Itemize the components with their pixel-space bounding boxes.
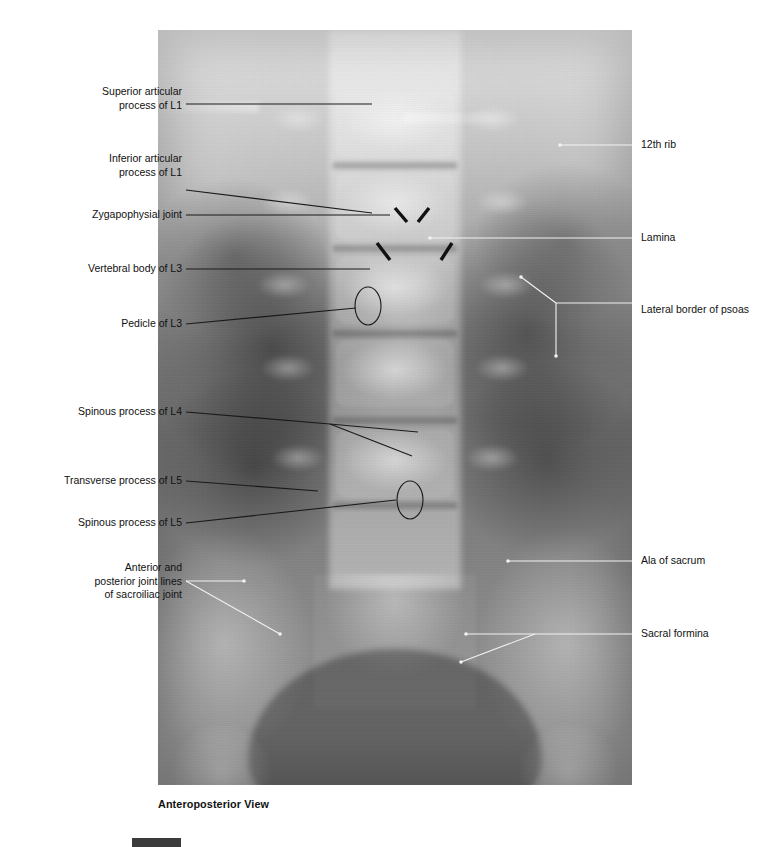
label-transverse-process-l5: Transverse process of L5 (12, 474, 182, 488)
label-zygapophysial-joint: Zygapophysial joint (32, 208, 182, 222)
leader-dot-psoas-lower (554, 354, 558, 358)
leader-dot-sacral-foramina-upper (464, 632, 468, 636)
leader-dot-sacroiliac-upper (242, 579, 246, 583)
label-inferior-articular-process-l1: Inferior articular process of L1 (42, 152, 182, 179)
label-lateral-border-of-psoas: Lateral border of psoas (641, 303, 773, 317)
leader-spinous-process-l5 (186, 500, 396, 523)
leader-dot-ala-of-sacrum (506, 559, 510, 563)
marker-oval-spinous-process-l5 (397, 481, 423, 519)
label-sacral-foramina: Sacral formina (641, 627, 771, 641)
leader-pedicle-l3 (186, 308, 356, 324)
label-pedicle-l3: Pedicle of L3 (32, 317, 182, 331)
leader-psoas-upper (521, 277, 556, 303)
marker-dash-right (441, 243, 452, 260)
leader-inferior-articular-process-l1 (186, 190, 372, 213)
leader-sacral-foramina-lower (461, 634, 535, 662)
label-vertebral-body-l3: Vertebral body of L3 (32, 262, 182, 276)
leader-spinous-process-l4-lower (330, 424, 412, 456)
marker-dash-left (377, 243, 390, 260)
leader-dot-psoas-upper (519, 275, 523, 279)
marker-chevron-right (418, 208, 429, 222)
label-sacroiliac-joint-lines: Anterior and posterior joint lines of sa… (32, 561, 182, 602)
label-spinous-process-l4: Spinous process of L4 (22, 405, 182, 419)
label-twelfth-rib: 12th rib (641, 138, 771, 152)
leader-transverse-process-l5 (186, 481, 318, 491)
marker-chevron-left (395, 208, 407, 222)
leader-dot-sacroiliac-lower (278, 632, 282, 636)
leader-dot-lamina (428, 236, 432, 240)
label-spinous-process-l5: Spinous process of L5 (22, 516, 182, 530)
label-ala-of-sacrum: Ala of sacrum (641, 554, 771, 568)
label-lamina: Lamina (641, 231, 771, 245)
page-marker-swatch (132, 838, 181, 847)
leader-spinous-process-l4-upper (186, 412, 418, 432)
marker-oval-pedicle-l3 (355, 287, 381, 325)
leader-dot-sacral-foramina-lower (459, 660, 463, 664)
label-superior-articular-process-l1: Superior articular process of L1 (42, 85, 182, 112)
figure-caption: Anteroposterior View (158, 798, 269, 810)
leader-sacroiliac-lower (186, 581, 280, 634)
leader-dot-twelfth-rib (558, 143, 562, 147)
